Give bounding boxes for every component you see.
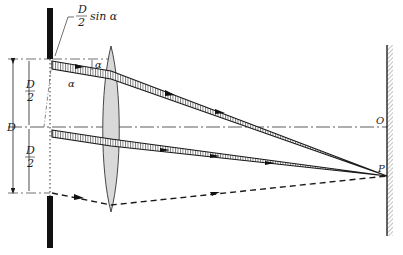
label-half-lower-D: D	[25, 144, 35, 157]
sin-alpha-leader	[55, 17, 74, 56]
lower-beam	[52, 130, 387, 176]
label-point-P: P	[377, 163, 385, 174]
label-sin-alpha: sin α	[90, 10, 118, 23]
optics-diagram: D 2 sin α α α D 2 D D 2 O P	[0, 0, 403, 255]
label-alpha-left: α	[68, 78, 75, 89]
arrow-icon	[165, 90, 175, 96]
aperture-lower-block	[47, 196, 53, 248]
label-alpha-top: α	[95, 59, 102, 70]
label-half-upper-D: D	[25, 78, 35, 91]
aperture-upper-block	[47, 8, 53, 59]
label-half-lower-2: 2	[26, 157, 34, 170]
label-top-2: 2	[77, 16, 85, 29]
label-point-O: O	[376, 115, 384, 126]
wavefront-line	[44, 61, 52, 127]
observation-screen	[387, 45, 393, 236]
upper-beam	[52, 61, 387, 176]
label-half-upper-2: 2	[26, 91, 34, 104]
label-full-D: D	[6, 121, 16, 134]
aperture-plate	[47, 8, 53, 248]
arrow-icon	[210, 192, 220, 196]
label-top-D: D	[77, 3, 87, 16]
marginal-ray-dashed	[52, 176, 387, 205]
